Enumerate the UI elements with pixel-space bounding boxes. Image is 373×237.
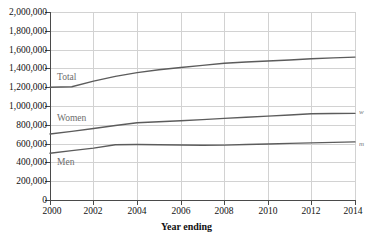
x-tick-label: 2002 [73, 206, 113, 217]
y-axis-line [50, 12, 51, 201]
gridline-horizontal [50, 144, 355, 145]
y-tick-label: 200,000 [0, 176, 47, 186]
y-tick-label: 0 [0, 195, 47, 205]
x-tick-mark [181, 201, 182, 205]
y-tick-label: 400,000 [0, 157, 47, 167]
gridline-vertical [181, 12, 182, 200]
series-label-men: Men [57, 157, 74, 168]
plot-area [50, 12, 355, 200]
x-tick-mark [50, 201, 51, 205]
y-tick-label: 1,400,000 [0, 63, 47, 73]
y-tick-label: 1,000,000 [0, 101, 47, 111]
gridline-horizontal [50, 87, 355, 88]
series-label-women: Women [57, 113, 86, 124]
x-tick-mark [311, 201, 312, 205]
x-axis-title: Year ending [0, 221, 373, 232]
gridline-vertical [268, 12, 269, 200]
y-tick-label: 600,000 [0, 139, 47, 149]
x-tick-mark [93, 201, 94, 205]
x-tick-label: 2014 [333, 206, 373, 217]
y-tick-label: 1,600,000 [0, 45, 47, 55]
gridline-horizontal [50, 68, 355, 69]
x-tick-label: 2006 [161, 206, 201, 217]
y-tick-label: 800,000 [0, 120, 47, 130]
gridline-vertical [224, 12, 225, 200]
gridline-horizontal [50, 162, 355, 163]
gridline-horizontal [50, 31, 355, 32]
gridline-vertical [355, 12, 356, 200]
edge-marker-men: m [359, 140, 369, 148]
x-tick-mark [268, 201, 269, 205]
x-tick-label: 2004 [117, 206, 157, 217]
gridline-horizontal [50, 181, 355, 182]
series-label-total: Total [57, 72, 76, 83]
line-chart: 2,000,000 1,800,000 1,600,000 1,400,000 … [0, 0, 373, 237]
x-tick-label: 2010 [248, 206, 288, 217]
x-tick-label: 2000 [32, 206, 72, 217]
gridline-vertical [311, 12, 312, 200]
gridline-horizontal [50, 125, 355, 126]
y-tick-label: 2,000,000 [0, 7, 47, 17]
gridline-horizontal [50, 50, 355, 51]
y-tick-label: 1,200,000 [0, 82, 47, 92]
y-tick-label: 1,800,000 [0, 26, 47, 36]
gridline-vertical [137, 12, 138, 200]
x-tick-mark [137, 201, 138, 205]
gridline-horizontal [50, 12, 355, 13]
x-tick-mark [224, 201, 225, 205]
x-tick-label: 2008 [204, 206, 244, 217]
x-tick-mark [355, 201, 356, 205]
chart-title [110, 0, 280, 3]
gridline-horizontal [50, 106, 355, 107]
gridline-vertical [93, 12, 94, 200]
edge-marker-women: w [359, 108, 369, 116]
x-tick-label: 2012 [291, 206, 331, 217]
